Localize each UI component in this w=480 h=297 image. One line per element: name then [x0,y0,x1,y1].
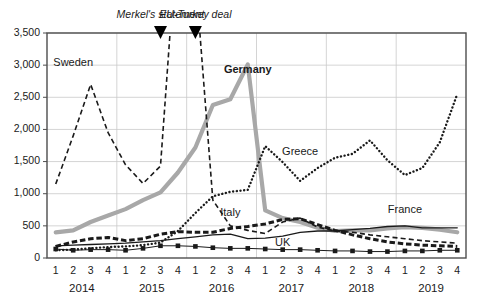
x-axis-quarter-label: 2 [140,264,146,276]
x-axis-quarter-label: 1 [262,264,268,276]
x-axis-year-label: 2015 [139,282,165,294]
x-axis-quarter-label: 1 [123,264,129,276]
x-axis-quarter-label: 2 [280,264,286,276]
y-axis-labels: 05001,0001,5002,0002,5003,0003,500 [14,26,47,263]
x-axis-quarter-label: 2 [70,264,76,276]
y-axis-tick-label: 2,000 [14,122,40,134]
x-axis-quarter-label: 3 [158,264,164,276]
x-axis-quarter-label: 1 [53,264,59,276]
x-axis-year-label: 2016 [209,282,235,294]
y-axis-tick-label: 1,500 [14,154,40,166]
series-marker-uk [88,247,93,252]
chart-container: 05001,0001,5002,0002,5003,0003,500 12341… [0,0,480,297]
series-marker-uk [71,248,76,253]
series-marker-uk [228,246,233,251]
series-marker-uk [333,249,338,254]
y-axis-tick-label: 1,000 [14,186,40,198]
annotations-group: Merkel's statementEU-Turkey deal [117,8,233,39]
series-marker-uk [350,249,355,254]
series-marker-uk [53,247,58,252]
series-marker-uk [158,243,163,248]
x-axis-quarter-label: 4 [245,264,251,276]
series-marker-uk [106,247,111,252]
series-marker-uk [315,248,320,253]
x-axis-quarter-label: 3 [297,264,303,276]
x-axis-quarter-label: 1 [402,264,408,276]
series-marker-uk [211,245,216,250]
series-marker-uk [438,248,443,253]
x-axis-quarter-label: 4 [454,264,460,276]
x-axis-quarter-label: 2 [350,264,356,276]
x-axis-quarter-label: 2 [210,264,216,276]
x-axis-quarter-label: 4 [105,264,111,276]
y-axis-tick-label: 0 [34,251,40,263]
y-axis-tick-label: 3,000 [14,58,40,70]
series-marker-uk [176,243,181,248]
x-axis-quarter-label: 1 [192,264,198,276]
series-marker-uk [420,249,425,254]
series-marker-uk [141,246,146,251]
series-marker-uk [298,247,303,252]
series-marker-uk [193,244,198,249]
x-axis-quarter-label: 2 [419,264,425,276]
series-marker-uk [263,247,268,252]
x-axis-year-label: 2018 [348,282,374,294]
series-label-sweden: Sweden [53,56,93,68]
x-axis-quarter-label: 3 [437,264,443,276]
x-axis-quarter-label: 4 [175,264,181,276]
x-axis-quarter-label: 4 [315,264,321,276]
annotation-label: EU-Turkey deal [159,8,232,20]
x-axis-quarter-label: 3 [367,264,373,276]
x-axis-quarter-labels: 123412341234123412341234 [53,264,461,276]
series-marker-uk [123,248,128,253]
x-axis-year-label: 2014 [69,282,95,294]
series-marker-uk [368,249,373,254]
series-label-italy: Italy [220,206,241,218]
x-axis-year-labels: 201420152016201720182019 [69,282,444,294]
series-label-france: France [388,203,422,215]
x-axis-quarter-label: 1 [332,264,338,276]
series-marker-uk [403,249,408,254]
y-axis-tick-label: 3,500 [14,26,40,38]
series-label-uk: UK [275,236,291,248]
y-axis-tick-label: 500 [22,219,40,231]
x-axis-quarter-label: 3 [88,264,94,276]
series-marker-uk [280,247,285,252]
x-axis-year-label: 2019 [418,282,444,294]
x-axis-quarter-label: 3 [227,264,233,276]
series-marker-uk [385,249,390,254]
series-marker-uk [455,248,460,253]
series-label-germany: Germany [224,63,273,75]
series-marker-uk [245,246,250,251]
y-axis-tick-label: 2,500 [14,90,40,102]
series-label-greece: Greece [282,145,318,157]
chart-svg: 05001,0001,5002,0002,5003,0003,500 12341… [0,0,480,297]
x-axis-quarter-label: 4 [385,264,391,276]
x-axis-year-label: 2017 [279,282,305,294]
